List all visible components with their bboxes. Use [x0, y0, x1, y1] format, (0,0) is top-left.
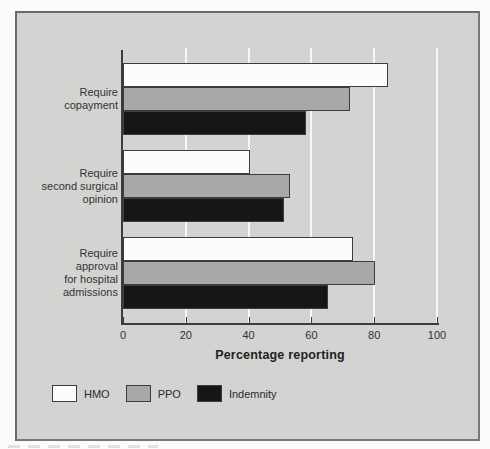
- category-label-line: admissions: [4, 286, 118, 299]
- category-label-group2: Requiresecond surgicalopinion: [4, 167, 118, 206]
- category-label-line: second surgical: [4, 180, 118, 193]
- bar-indemnity-group1: [123, 111, 306, 135]
- plot-area: 020406080100RequirecopaymentRequiresecon…: [0, 0, 490, 449]
- x-tick-0: [123, 317, 124, 323]
- x-tick-20: [186, 317, 187, 323]
- legend-swatch-ppo: [126, 385, 151, 402]
- x-tick-label-60: 60: [291, 329, 331, 341]
- bar-indemnity-group2: [123, 198, 284, 222]
- x-tick-60: [311, 317, 312, 323]
- category-label-line: Require: [4, 86, 118, 99]
- category-label-line: Require: [4, 167, 118, 180]
- bar-hmo-group1: [123, 63, 388, 87]
- legend-label: HMO: [84, 388, 110, 400]
- category-label-line: Require: [4, 247, 118, 260]
- bar-hmo-group3: [123, 237, 353, 261]
- category-label-line: approval: [4, 260, 118, 273]
- legend-label: PPO: [158, 388, 181, 400]
- category-label-line: for hospital: [4, 273, 118, 286]
- x-axis-line: [121, 323, 439, 325]
- category-label-group3: Requireapprovalfor hospitaladmissions: [4, 247, 118, 299]
- x-axis-title: Percentage reporting: [123, 348, 437, 362]
- category-label-line: opinion: [4, 193, 118, 206]
- legend: HMOPPOIndemnity: [52, 385, 293, 402]
- legend-item-ppo: PPO: [126, 385, 181, 402]
- x-tick-label-40: 40: [229, 329, 269, 341]
- legend-item-indemnity: Indemnity: [197, 385, 277, 402]
- legend-swatch-hmo: [52, 385, 77, 402]
- category-label-group1: Requirecopayment: [4, 86, 118, 112]
- bar-hmo-group2: [123, 150, 250, 174]
- bar-indemnity-group3: [123, 285, 328, 309]
- x-tick-label-0: 0: [103, 329, 143, 341]
- x-tick-label-80: 80: [354, 329, 394, 341]
- y-axis-line: [121, 50, 123, 325]
- x-tick-label-100: 100: [417, 329, 457, 341]
- figure-canvas: 020406080100RequirecopaymentRequiresecon…: [0, 0, 490, 449]
- legend-item-hmo: HMO: [52, 385, 110, 402]
- x-tick-80: [374, 317, 375, 323]
- bar-ppo-group1: [123, 87, 350, 111]
- legend-swatch-indemnity: [197, 385, 222, 402]
- x-tick-100: [437, 317, 438, 323]
- legend-label: Indemnity: [229, 388, 277, 400]
- bar-ppo-group3: [123, 261, 375, 285]
- x-tick-40: [249, 317, 250, 323]
- bar-ppo-group2: [123, 174, 290, 198]
- cropped-caption-fragment: [8, 445, 158, 448]
- gridline-100: [436, 48, 438, 324]
- category-label-line: copayment: [4, 99, 118, 112]
- x-tick-label-20: 20: [166, 329, 206, 341]
